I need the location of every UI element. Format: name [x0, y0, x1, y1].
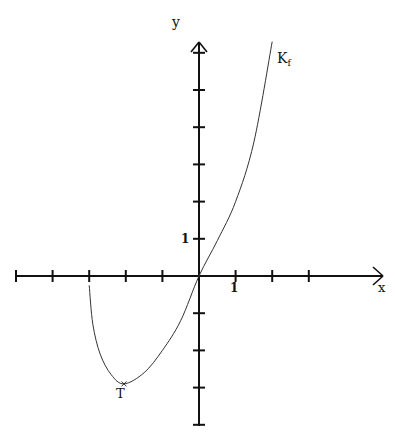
- curve-label: Kf: [277, 50, 291, 68]
- chart: x y 1 1 Kf T: [0, 0, 395, 435]
- axes: [16, 42, 383, 426]
- x-tick-label-1: 1: [230, 281, 238, 295]
- y-tick-label-1: 1: [181, 232, 189, 246]
- x-axis-label: x: [378, 280, 386, 295]
- curve-kf: [89, 42, 272, 384]
- y-axis-label: y: [171, 14, 180, 30]
- point-label-t: T: [116, 386, 125, 401]
- x-axis-arrow: [373, 267, 383, 276]
- y-axis-arrow: [199, 42, 207, 52]
- y-axis-arrow: [191, 42, 199, 52]
